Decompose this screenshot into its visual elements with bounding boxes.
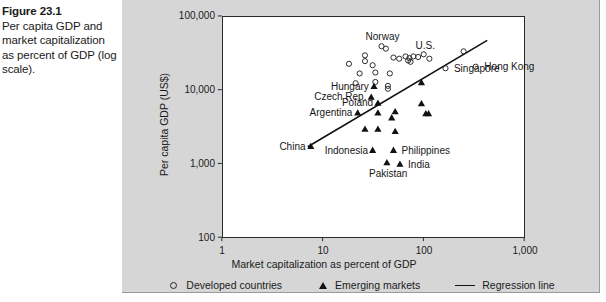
x-axis-title-wrap: Market capitalization as percent of GDP — [0, 258, 606, 270]
figure-root: Figure 23.1 Per capita GDP and market ca… — [0, 0, 606, 302]
figure-panel: Per capita GDP (US$) NorwayU.S.Singapore… — [122, 0, 600, 293]
figure-number: Figure 23.1 — [2, 4, 118, 18]
legend-item-emerging: Emerging markets — [316, 279, 420, 291]
figure-caption-text: Per capita GDP and market capitalization… — [2, 19, 118, 77]
open-circle-icon — [167, 279, 180, 291]
line-segment-icon — [454, 279, 476, 291]
legend-label-emerging: Emerging markets — [335, 279, 420, 291]
legend-item-developed: Developed countries — [167, 279, 282, 291]
chart-legend: Developed countriesEmerging marketsRegre… — [122, 276, 600, 293]
legend-item-regression: Regression line — [454, 279, 554, 291]
filled-triangle-icon — [316, 279, 329, 291]
figure-caption-block: Figure 23.1 Per capita GDP and market ca… — [2, 4, 118, 77]
x-axis-title: Market capitalization as percent of GDP — [231, 258, 416, 270]
open-circle-icon-glyph — [170, 282, 177, 289]
line-segment-icon-glyph — [455, 285, 475, 286]
axis-tickmarks — [122, 0, 599, 292]
filled-triangle-icon-glyph — [319, 282, 327, 289]
legend-label-developed: Developed countries — [186, 279, 282, 291]
legend-label-regression: Regression line — [482, 279, 554, 291]
